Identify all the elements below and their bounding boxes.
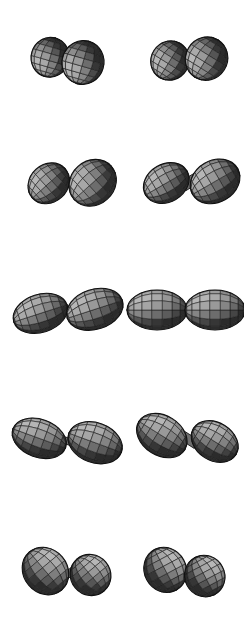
shape-lobe [182,150,244,212]
shape-lobe [62,414,128,471]
binary-shape [13,518,120,625]
shape-lobe [128,404,195,467]
figure-canvas [0,0,244,640]
shape-lobe [61,281,129,337]
shape-lobe [8,287,73,340]
shape-panel-row-4-left [2,376,132,506]
shape-lobe [59,150,126,216]
shape-lobe [185,290,244,330]
shape-lobe [127,290,187,330]
shape-lobe [13,538,79,605]
shape-lobe [183,412,244,471]
binary-shape [8,270,129,353]
shape-panel-row-1-left [2,0,132,125]
shape-lobe [177,548,232,604]
shape-lobe [177,29,236,89]
binary-shape [143,14,236,105]
shape-panel-row-1-right [123,0,244,125]
binary-shape [136,525,232,619]
shape-panel-row-3-right [121,245,244,375]
binary-shape [136,132,244,233]
shape-panel-row-2-right [125,117,244,247]
shape-panel-row-5-left [3,508,133,638]
shape-lobe [136,155,197,212]
shape-panel-row-5-right [120,508,244,638]
shape-lobe [62,546,120,604]
binary-shape [128,386,244,492]
shape-panel-row-2-left [5,118,135,248]
shape-lobe [6,411,72,466]
binary-shape [20,130,126,236]
binary-shape [26,27,109,91]
shape-panel-row-4-right [123,374,244,504]
shape-panel-row-3-left [2,246,132,376]
binary-shape [127,290,244,330]
binary-shape [6,396,128,484]
